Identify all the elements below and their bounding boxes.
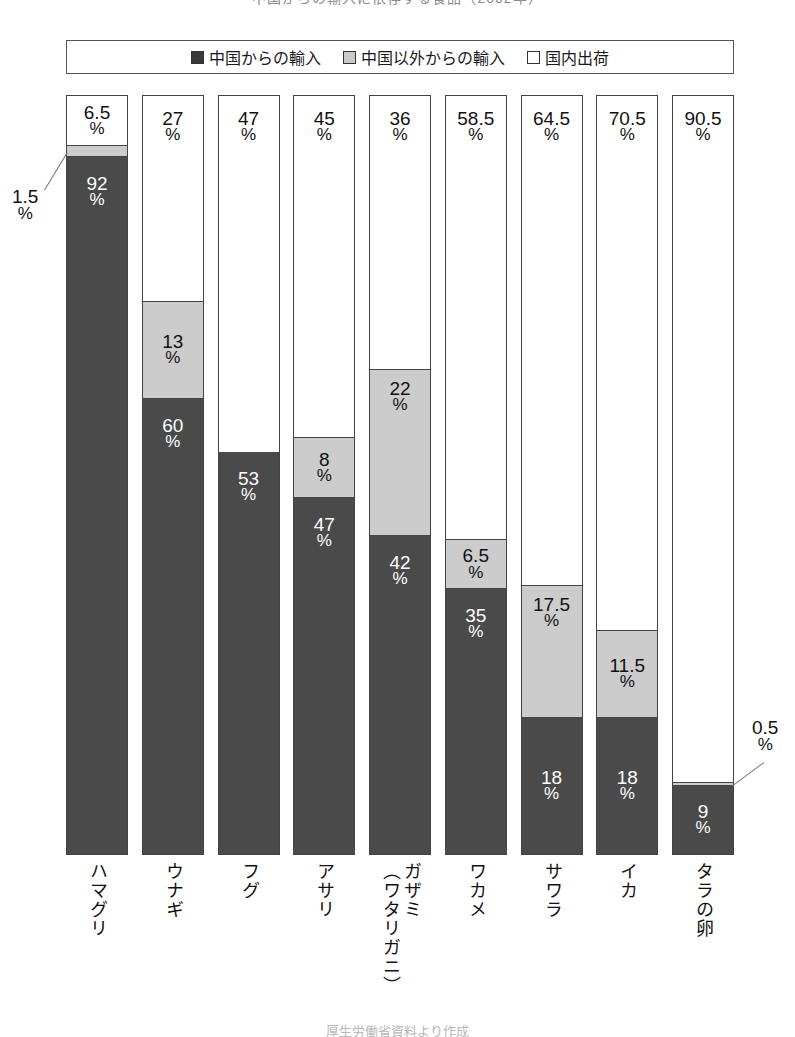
percent-sign: % [389,397,410,413]
bar-フグ: 47%53% [218,95,280,855]
segment-value-label: 47% [238,110,259,143]
legend-label-other: 中国以外からの輸入 [361,45,505,69]
segment-value-label: 47% [314,516,335,549]
segment-value-label: 6.5% [463,547,489,580]
legend-swatch-china-icon [191,51,204,64]
bar-segment-china: 9% [673,786,733,854]
legend-item-china: 中国からの輸入 [191,45,321,69]
bar-segment-other: 6.5% [446,539,506,588]
percent-sign: % [752,737,778,753]
segment-value-label: 17.5% [533,596,570,629]
legend-label-domestic: 国内出荷 [545,45,609,69]
percent-sign: % [695,820,710,836]
percent-sign: % [389,571,410,587]
segment-value-label: 6.5% [84,104,110,137]
bar-segment-china: 35% [446,589,506,854]
callout-leader-line [732,762,764,786]
percent-sign: % [317,468,332,484]
chart-legend: 中国からの輸入 中国以外からの輸入 国内出荷 [66,40,734,74]
category-label-line: サワラ [541,862,561,919]
callout-label-other: 1.5% [12,188,38,222]
category-label-line: アサリ [314,862,334,919]
bar-segment-china: 18% [597,718,657,854]
category-label-line: ウナギ [163,862,183,919]
percent-sign: % [162,127,183,143]
bar-segment-domestic: 58.5% [446,96,506,539]
segment-value-label: 92% [86,175,107,208]
bar-segment-domestic: 47% [219,96,279,452]
bar-ガザミ（ワタリガニ）: 36%22%42% [369,95,431,855]
category-label-line: タラの卵 [693,862,713,938]
category-label-line: ハマグリ [87,862,107,938]
percent-sign: % [12,206,38,222]
category-label-line: ワカメ [466,862,486,919]
percent-sign: % [609,674,645,690]
bar-アサリ: 45%8%47% [293,95,355,855]
percent-sign: % [238,127,259,143]
bar-segment-china: 47% [294,498,354,854]
bar-segment-domestic: 27% [143,96,203,301]
percent-sign: % [162,434,183,450]
bar-タラの卵: 90.5%9% [672,95,734,855]
category-label-line: イカ [617,862,637,900]
category-label-イカ: イカ [596,862,658,900]
segment-value-label: 53% [238,470,259,503]
bar-segment-domestic: 6.5% [67,96,127,145]
category-label-フグ: フグ [218,862,280,900]
bar-segment-china: 53% [219,452,279,854]
category-label-タラの卵: タラの卵 [672,862,734,938]
segment-value-label: 13% [162,333,183,366]
percent-sign: % [84,121,110,137]
segment-value-label: 8% [317,451,332,484]
bar-segment-other: 17.5% [522,585,582,718]
page-title: 中国からの輸入に依存する食品（2002年） [0,0,795,5]
bar-segment-other: 11.5% [597,630,657,717]
bar-segment-domestic: 45% [294,96,354,437]
segment-value-label: 45% [314,110,335,143]
percent-sign: % [533,613,570,629]
category-label-サワラ: サワラ [521,862,583,919]
percent-sign: % [238,487,259,503]
category-label-ハマグリ: ハマグリ [66,862,128,938]
segment-value-label: 22% [389,380,410,413]
percent-sign: % [617,786,638,802]
category-label-ウナギ: ウナギ [142,862,204,919]
legend-swatch-other-icon [343,51,356,64]
legend-label-china: 中国からの輸入 [209,45,321,69]
segment-value-label: 18% [541,769,562,802]
callout-label-other: 0.5% [752,719,778,753]
segment-value-label: 58.5% [457,110,494,143]
bar-ワカメ: 58.5%6.5%35% [445,95,507,855]
legend-swatch-domestic-icon [527,51,540,64]
bar-segment-china: 42% [370,536,430,854]
segment-value-label: 27% [162,110,183,143]
percent-sign: % [533,127,570,143]
percent-sign: % [463,565,489,581]
category-label-line: ガザミ [401,862,421,995]
footer-note: 厚生労働省資料より作成 [0,1021,795,1037]
percent-sign: % [389,127,410,143]
percent-sign: % [457,127,494,143]
bar-イカ: 70.5%11.5%18% [596,95,658,855]
segment-value-label: 18% [617,769,638,802]
segment-value-label: 35% [465,607,486,640]
category-label-ワカメ: ワカメ [445,862,507,919]
bar-segment-domestic: 64.5% [522,96,582,585]
category-label-アサリ: アサリ [293,862,355,919]
segment-value-label: 70.5% [609,110,646,143]
percent-sign: % [685,127,722,143]
segment-value-label: 90.5% [685,110,722,143]
bar-segment-domestic: 36% [370,96,430,369]
percent-sign: % [541,786,562,802]
segment-value-label: 64.5% [533,110,570,143]
bar-ウナギ: 27%13%60% [142,95,204,855]
legend-item-other: 中国以外からの輸入 [343,45,505,69]
category-label-line: （ワタリガニ） [379,862,399,995]
category-label-line: フグ [238,862,258,900]
percent-sign: % [609,127,646,143]
chart-plot-area: 6.5%92%1.5%27%13%60%47%53%45%8%47%36%22%… [0,95,795,855]
bar-segment-other: 22% [370,369,430,536]
category-label-ガザミ（ワタリガニ）: ガザミ（ワタリガニ） [369,862,431,995]
bar-segment-domestic: 70.5% [597,96,657,630]
percent-sign: % [314,127,335,143]
